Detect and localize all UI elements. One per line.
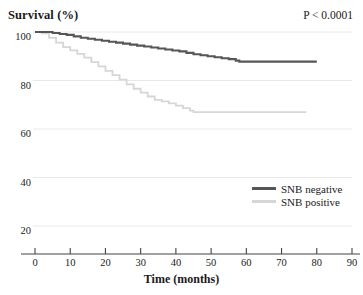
- y-tick-label: 100: [5, 31, 31, 42]
- legend-label-snb-negative: SNB negative: [281, 183, 342, 195]
- legend-item-snb-negative: SNB negative: [252, 182, 342, 195]
- y-tick-label: 60: [5, 128, 31, 139]
- legend-label-snb-positive: SNB positive: [281, 196, 340, 208]
- survival-chart-figure: Survival (%) P < 0.0001 Time (months) SN…: [0, 0, 363, 295]
- y-tick-label: 20: [5, 225, 31, 236]
- series-line-snb-negative: [35, 32, 317, 62]
- plot-canvas: [0, 0, 363, 295]
- y-tick-label: 40: [5, 177, 31, 188]
- x-tick-label: 90: [337, 257, 363, 268]
- x-tick-label: 30: [126, 257, 156, 268]
- x-tick-label: 0: [20, 257, 50, 268]
- x-tick-label: 60: [231, 257, 261, 268]
- x-tick-label: 80: [302, 257, 332, 268]
- x-tick-label: 40: [161, 257, 191, 268]
- legend-item-snb-positive: SNB positive: [252, 195, 342, 208]
- legend-swatch-snb-negative: [252, 187, 276, 190]
- chart-legend: SNB negative SNB positive: [252, 182, 342, 208]
- x-tick-label: 10: [55, 257, 85, 268]
- x-axis-title: Time (months): [0, 272, 363, 287]
- legend-swatch-snb-positive: [252, 200, 276, 203]
- y-tick-label: 80: [5, 80, 31, 91]
- x-tick-label: 70: [267, 257, 297, 268]
- x-tick-label: 50: [196, 257, 226, 268]
- series-line-snb-positive: [35, 32, 306, 112]
- x-tick-label: 20: [90, 257, 120, 268]
